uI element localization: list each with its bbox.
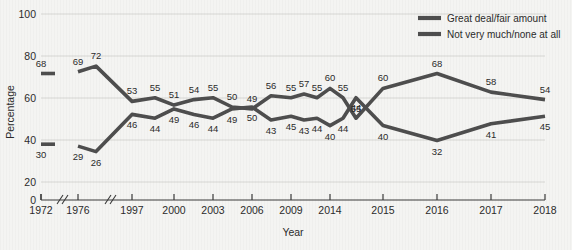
lower-point-label-2000: 44 [150,123,161,134]
upper-point-label-2009: 55 [286,82,297,93]
x-tick-2017: 2017 [479,204,503,216]
x-tick-2009: 2009 [279,204,303,216]
y-axis-tick-labels: 100 80 60 40 20 0 [18,8,36,206]
upper-point-label-1997: 72 [91,50,102,61]
chart-legend: Great deal/fair amount Not very much/non… [418,13,560,40]
upper-point-label-2000: 55 [150,82,161,93]
lower-point-label-2010: 43 [299,125,310,136]
upper-point-label-2018: 54 [540,84,551,95]
upper-point-label-2005: 50 [227,91,238,102]
lower-point-label-2015: 40 [378,131,389,142]
legend-label-not-very-much: Not very much/none at all [447,29,560,40]
upper-point-label-2010: 57 [299,78,310,89]
lower-point-label-2006: 50 [247,112,258,123]
lower-point-label-2018: 45 [540,121,551,132]
upper-point-label-2003: 54 [189,84,200,95]
upper-point-label-2004: 55 [208,82,219,93]
lower-point-label-2011: 44 [312,123,323,134]
lower-point-label-2004: 44 [208,123,219,134]
x-tick-1972: 1972 [29,204,53,216]
upper-point-label-1972: 68 [36,58,47,69]
upper-point-label-2012: 60 [325,72,336,83]
y-tick-80: 80 [24,50,36,62]
lower-point-label-2013: 44 [338,123,349,134]
x-axis-tick-labels: 1972 1976 1997 2000 2003 2006 2009 2014 … [29,204,557,216]
upper-point-label-2006: 49 [247,93,258,104]
x-tick-2006: 2006 [240,204,264,216]
upper-point-label-2016: 68 [432,58,443,69]
lower-point-label-2012: 40 [325,131,336,142]
y-tick-40: 40 [24,134,36,146]
lower-point-label-2001: 49 [169,114,180,125]
upper-point-label-2011: 55 [312,82,323,93]
lower-point-label-1976: 29 [73,151,84,162]
trust-in-media-line-chart: 100 80 60 40 20 0 Percentage [0,0,572,250]
lower-point-label-1998: 46 [127,119,138,130]
x-tick-2015: 2015 [371,204,395,216]
upper-point-label-2007: 56 [266,80,277,91]
lower-point-label-2016: 32 [432,146,443,157]
upper-point-label-1976: 69 [73,56,84,67]
y-axis-title: Percentage [4,85,16,139]
x-tick-1976: 1976 [66,204,90,216]
x-tick-2000: 2000 [162,204,186,216]
lower-point-label-2003: 46 [189,119,200,130]
upper-point-label-2001: 51 [169,89,180,100]
x-tick-2016: 2016 [425,204,449,216]
lower-point-label-2005: 49 [227,114,238,125]
x-tick-1997: 1997 [120,204,144,216]
y-tick-100: 100 [18,8,36,20]
upper-point-label-2013: 55 [338,82,349,93]
lower-point-label-2009: 45 [286,121,297,132]
lower-point-label-2007: 43 [266,125,277,136]
upper-point-label-1998: 53 [127,85,138,96]
upper-point-label-2017: 58 [486,76,497,87]
x-axis-title: Year [282,226,304,238]
legend-label-great-deal: Great deal/fair amount [447,13,547,24]
x-tick-2014: 2014 [318,204,342,216]
x-tick-2003: 2003 [201,204,225,216]
y-tick-60: 60 [24,92,36,104]
lower-point-label-1997: 26 [91,157,102,168]
x-tick-2018: 2018 [533,204,557,216]
lower-point-label-1972: 30 [36,149,47,160]
y-tick-20: 20 [24,176,36,188]
upper-point-label-2015: 60 [378,72,389,83]
lower-point-label-2017: 41 [486,129,497,140]
lower-point-label-2014: 55 [351,103,362,114]
x-axis [41,194,545,200]
